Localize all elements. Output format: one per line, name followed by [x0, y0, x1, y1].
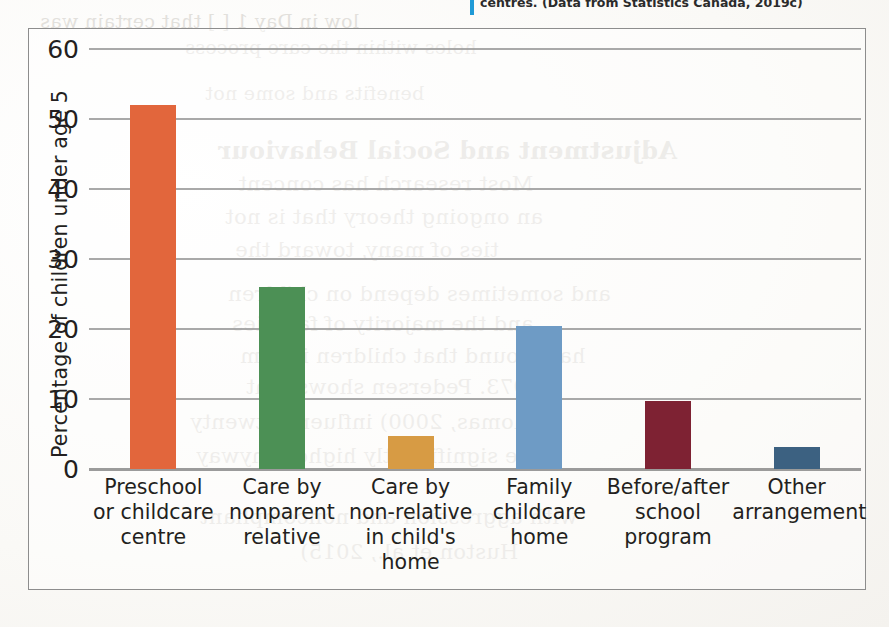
bar: [259, 287, 305, 469]
x-axis-tick-label-line: in child's: [346, 525, 475, 550]
x-axis-tick-label-line: nonparent: [218, 500, 347, 525]
y-axis-tick-label: 60: [47, 35, 79, 64]
plot-area: 0102030405060: [89, 49, 861, 469]
y-axis-tick-label: 20: [47, 315, 79, 344]
x-axis-tick-label-line: Care by: [218, 475, 347, 500]
x-axis-tick-label-line: Other: [732, 475, 861, 500]
bar: [516, 326, 562, 469]
gridline: [89, 398, 861, 400]
y-axis-tick-label: 40: [47, 175, 79, 204]
x-axis-tick-label-line: centre: [89, 525, 218, 550]
figure-caption: centres. (Data from Statistics Canada, 2…: [470, 0, 880, 18]
bar: [388, 436, 434, 469]
x-axis-tick-label-line: Care by: [346, 475, 475, 500]
x-axis-tick-label: Otherarrangement: [732, 475, 861, 525]
x-axis-tick-label-line: Family: [475, 475, 604, 500]
gridline: [89, 328, 861, 330]
x-axis-line: [89, 468, 861, 471]
y-axis-tick-label: 50: [47, 105, 79, 134]
bar: [130, 105, 176, 469]
x-axis-tick-label-line: childcare: [475, 500, 604, 525]
x-axis-tick-label: Care bynon-relativein child'shome: [346, 475, 475, 575]
x-axis-tick-label-line: non-relative: [346, 500, 475, 525]
x-axis-tick-label-line: home: [346, 550, 475, 575]
x-axis-tick-label: Before/afterschoolprogram: [604, 475, 733, 550]
chart-frame: Percentage of children under age 5 01020…: [28, 28, 866, 590]
caption-text: centres. (Data from Statistics Canada, 2…: [480, 0, 803, 9]
x-axis-tick-label-line: arrangement: [732, 500, 861, 525]
x-axis-tick-label-line: school: [604, 500, 733, 525]
gridline: [89, 188, 861, 190]
gridline: [89, 118, 861, 120]
x-axis-tick-label-line: Preschool: [89, 475, 218, 500]
gridline: [89, 48, 861, 50]
y-axis-tick-label: 10: [47, 385, 79, 414]
gridline: [89, 258, 861, 260]
x-axis-tick-label: Familychildcarehome: [475, 475, 604, 550]
y-axis-tick-label: 0: [63, 455, 79, 484]
x-axis-tick-label-line: or childcare: [89, 500, 218, 525]
x-axis-tick-label-line: Before/after: [604, 475, 733, 500]
bar: [774, 447, 820, 469]
y-axis-tick-label: 30: [47, 245, 79, 274]
caption-accent-rule: [470, 0, 474, 15]
x-axis-tick-label: Preschoolor childcarecentre: [89, 475, 218, 550]
x-axis-tick-label-line: relative: [218, 525, 347, 550]
x-axis-tick-label-line: program: [604, 525, 733, 550]
x-axis-tick-label: Care bynonparentrelative: [218, 475, 347, 550]
x-axis-tick-label-line: home: [475, 525, 604, 550]
bar: [645, 401, 691, 469]
